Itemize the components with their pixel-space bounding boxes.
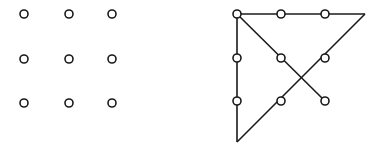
dot-R-r1c1: [233, 10, 241, 18]
dot-L-r1c2: [65, 10, 73, 18]
dot-L-r3c2: [65, 99, 73, 107]
dot-R-r3c1: [233, 97, 241, 105]
dot-L-r1c3: [108, 10, 116, 18]
figure-root: [0, 0, 386, 152]
dot-L-r2c3: [108, 55, 116, 63]
dot-R-r2c1: [233, 54, 241, 62]
dot-R-r3c3: [321, 97, 329, 105]
dot-L-r3c1: [20, 99, 28, 107]
dot-R-r2c2: [277, 54, 285, 62]
dot-L-r2c1: [20, 55, 28, 63]
nine-dots-figure-svg: [0, 0, 386, 152]
dot-L-r2c2: [65, 55, 73, 63]
dot-L-r1c1: [20, 10, 28, 18]
dot-R-r1c2: [277, 10, 285, 18]
dot-R-r3c2: [277, 97, 285, 105]
figure-background: [0, 0, 386, 152]
dot-L-r3c3: [108, 99, 116, 107]
dot-R-r1c3: [321, 10, 329, 18]
dot-R-r2c3: [321, 54, 329, 62]
